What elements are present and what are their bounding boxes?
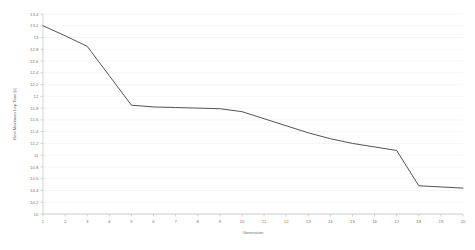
x-tick-label: 20: [461, 219, 466, 224]
y-tick-label: 12.2: [30, 82, 39, 87]
x-tick-label: 10: [240, 219, 245, 224]
y-tick-label: 13: [34, 35, 39, 40]
x-tick-label: 14: [328, 219, 333, 224]
y-tick-label: 10.2: [30, 200, 39, 205]
y-tick-label: 11: [34, 153, 39, 158]
x-tick-label: 12: [284, 219, 289, 224]
chart-container: 1010.210.410.610.81111.211.411.611.81212…: [0, 0, 475, 250]
x-axis-title: Generation: [243, 230, 264, 235]
y-tick-label: 12.4: [30, 70, 39, 75]
x-tick-label: 16: [372, 219, 377, 224]
y-tick-label: 11.4: [30, 129, 39, 134]
x-tick-label: 15: [350, 219, 355, 224]
y-axis-title: Best Maximum Lap Time [s]: [12, 88, 17, 140]
y-tick-label: 12.6: [30, 59, 39, 64]
y-tick-label: 10.4: [30, 188, 39, 193]
x-tick-label: 11: [262, 219, 267, 224]
y-tick-label: 13.4: [30, 12, 39, 17]
y-tick-label: 10.6: [30, 176, 39, 181]
x-tick-label: 19: [438, 219, 443, 224]
y-tick-label: 11.2: [30, 141, 39, 146]
y-tick-label: 13.2: [30, 23, 39, 28]
x-tick-label: 13: [306, 219, 311, 224]
y-tick-label: 10.8: [30, 165, 39, 170]
y-tick-label: 11.8: [30, 106, 39, 111]
y-tick-label: 12: [34, 94, 39, 99]
y-tick-label: 12.8: [30, 47, 39, 52]
x-tick-label: 18: [416, 219, 421, 224]
y-tick-label: 10: [34, 212, 39, 217]
x-tick-label: 17: [394, 219, 399, 224]
y-tick-label: 11.6: [30, 117, 39, 122]
line-chart: 1010.210.410.610.81111.211.411.611.81212…: [0, 0, 475, 250]
